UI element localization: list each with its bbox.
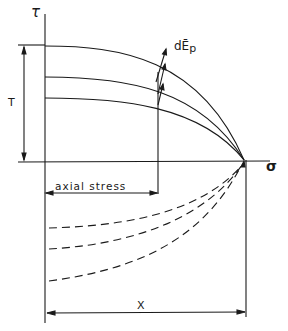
yield-curve-middle — [45, 77, 244, 160]
sigma-axis — [18, 161, 270, 162]
x-label: X — [137, 299, 145, 312]
yield-curve-outer — [45, 46, 244, 160]
yield-curve-inner — [45, 98, 244, 160]
axial-stress-label: axial stress — [55, 180, 126, 192]
sigma-axis-label: σ — [266, 158, 277, 174]
tau-axis-label: τ — [31, 3, 41, 21]
strain-increment-label: dĒp — [174, 39, 196, 55]
yield-surface-diagram: τ σ T dĒp axial stress X — [0, 0, 288, 331]
x-dimension-line — [47, 312, 245, 313]
t-label: T — [7, 96, 15, 109]
